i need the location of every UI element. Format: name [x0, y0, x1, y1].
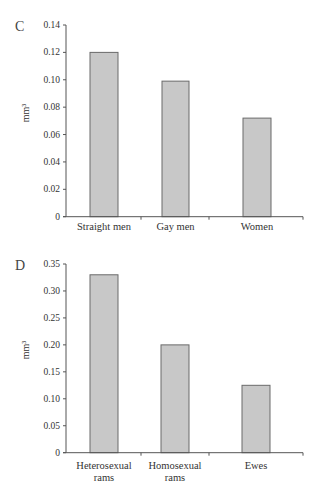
bar: [242, 385, 270, 452]
figure: Cmm³00.020.040.060.080.100.120.14Straigh…: [0, 0, 317, 486]
y-tick-label: 0: [55, 212, 60, 222]
y-tick-label: 0.10: [43, 394, 60, 404]
y-tick-label: 0.08: [43, 102, 60, 112]
x-category-label: Straight men: [77, 221, 132, 232]
x-category-label: rams: [165, 472, 185, 483]
x-category-label: rams: [94, 472, 114, 483]
x-category-label: Homosexual: [148, 460, 201, 471]
x-category-label: Ewes: [245, 460, 268, 471]
y-tick-label: 0.20: [43, 340, 60, 350]
chart-panel-d: Dmm³00.050.100.150.200.250.300.35Heteros…: [15, 258, 303, 483]
y-tick-label: 0.15: [43, 367, 60, 377]
bar: [161, 345, 189, 453]
bar: [162, 81, 189, 217]
bar: [243, 118, 271, 217]
y-tick-label: 0.10: [43, 75, 60, 85]
y-tick-label: 0.05: [43, 421, 60, 431]
chart-panel-c: Cmm³00.020.040.060.080.100.120.14Straigh…: [15, 19, 303, 232]
y-tick-label: 0.14: [43, 20, 60, 30]
y-tick-label: 0.25: [43, 313, 60, 323]
panel-label: D: [15, 258, 25, 273]
y-tick-label: 0.02: [43, 184, 60, 194]
y-axis-label: mm³: [20, 341, 31, 360]
y-tick-label: 0.04: [43, 157, 60, 167]
y-tick-label: 0: [55, 448, 60, 458]
x-category-label: Women: [241, 221, 274, 232]
bar: [90, 275, 118, 453]
y-tick-label: 0.06: [43, 130, 60, 140]
y-axis-label: mm³: [20, 104, 31, 123]
x-category-label: Heterosexual: [76, 460, 131, 471]
bar: [90, 52, 118, 216]
x-category-label: Gay men: [156, 221, 195, 232]
panel-label: C: [15, 19, 24, 34]
y-tick-label: 0.12: [43, 47, 60, 57]
y-tick-label: 0.35: [43, 259, 60, 269]
y-tick-label: 0.30: [43, 286, 60, 296]
